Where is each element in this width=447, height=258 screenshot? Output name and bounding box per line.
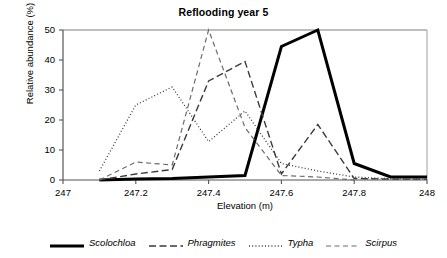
legend-label: Phragmites: [188, 237, 236, 248]
plot-area: [0, 0, 447, 258]
chart-figure: Reflooding year 5 Relative abundance (%)…: [0, 0, 447, 258]
data-series: [99, 30, 427, 180]
legend-item-scirpus: Scirpus: [326, 237, 397, 248]
series-line-typha: [99, 87, 427, 179]
legend-label: Scolochloa: [89, 237, 135, 248]
legend-item-scolochloa: Scolochloa: [50, 237, 135, 248]
axes: [59, 30, 427, 184]
legend-item-phragmites: Phragmites: [149, 237, 236, 248]
legend-label: Typha: [288, 237, 314, 248]
legend-label: Scirpus: [365, 237, 397, 248]
legend-swatch-scirpus: [326, 237, 360, 247]
legend-swatch-typha: [249, 237, 283, 247]
legend-item-typha: Typha: [249, 237, 314, 248]
series-line-scolochloa: [99, 30, 427, 180]
chart-legend: ScolochloaPhragmitesTyphaScirpus: [0, 231, 447, 253]
legend-swatch-phragmites: [149, 237, 183, 247]
series-line-scirpus: [99, 30, 354, 180]
legend-swatch-scolochloa: [50, 237, 84, 247]
series-line-phragmites: [99, 62, 427, 181]
